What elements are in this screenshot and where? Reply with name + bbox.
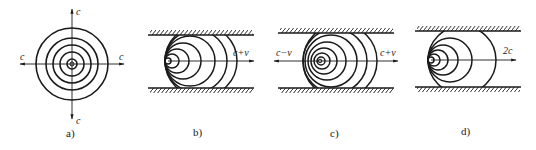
wall-hatch-top (417, 26, 520, 31)
caption-c: c) (330, 127, 339, 140)
wall-hatch-bottom (417, 87, 520, 92)
panel-a: c c c c a) (20, 6, 124, 140)
caption-a: a) (66, 127, 75, 140)
panel-b: c+v b) (148, 25, 254, 139)
label-right: 2c (503, 45, 513, 56)
label-left: c−v (276, 47, 292, 58)
caption-b: b) (193, 126, 203, 139)
label-left: c (20, 51, 25, 62)
panel-c: c−v c+v c) (274, 24, 398, 140)
label-up: c (76, 6, 81, 17)
label-right: c+v (380, 47, 396, 58)
wall-hatch-top (150, 30, 253, 35)
label-down: c (76, 115, 81, 126)
wall-hatch-bottom (280, 88, 393, 93)
wall-hatch-top (280, 28, 393, 33)
label-right: c+v (233, 47, 249, 58)
wavefront-diagram: c c c c a) c+v b) (0, 0, 536, 150)
label-right: c (119, 51, 124, 62)
wall-hatch-bottom (150, 88, 253, 93)
panel-d: 2c d) (415, 26, 521, 138)
caption-d: d) (461, 125, 471, 138)
